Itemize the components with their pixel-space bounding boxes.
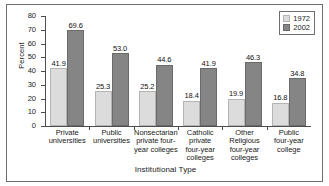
bar-value-label-2002-4: 46.3 bbox=[240, 53, 266, 62]
x-axis-category-label-2: Nonsectarianprivate four-year colleges bbox=[134, 129, 178, 154]
y-axis-tick-mark bbox=[41, 112, 45, 113]
x-axis-category-label-4: OtherReligiousfour-yearcolleges bbox=[222, 129, 266, 163]
plot-area: 0102030405060708041.969.625.353.025.244.… bbox=[45, 16, 311, 126]
y-axis-tick: 70 bbox=[41, 30, 45, 31]
legend-swatch-icon-2002 bbox=[283, 24, 290, 31]
y-axis-tick-mark bbox=[41, 71, 45, 72]
y-axis-tick-label: 70 bbox=[28, 25, 36, 34]
bar-value-label-2002-1: 53.0 bbox=[107, 44, 133, 53]
y-axis-tick: 10 bbox=[41, 112, 45, 113]
legend-item-2002: 2002 bbox=[283, 23, 310, 32]
legend-swatch-icon-1972 bbox=[283, 15, 290, 22]
bar-1972-1 bbox=[95, 91, 112, 126]
bar-1972-4 bbox=[228, 99, 245, 126]
bar-1972-3 bbox=[183, 101, 200, 126]
bar-value-label-2002-5: 34.8 bbox=[284, 69, 310, 78]
y-axis-tick: 30 bbox=[41, 85, 45, 86]
y-axis-line bbox=[45, 16, 46, 126]
y-axis-title: Percent bbox=[17, 26, 26, 86]
bar-1972-5 bbox=[272, 103, 289, 126]
y-axis-tick: 50 bbox=[41, 57, 45, 58]
bar-2002-0 bbox=[67, 30, 84, 126]
y-axis-tick-mark bbox=[41, 126, 45, 127]
bar-chart-figure: Percent Institutional Type 0102030405060… bbox=[0, 0, 329, 186]
chart-legend: 1972 2002 bbox=[279, 11, 315, 35]
figure-frame: Percent Institutional Type 0102030405060… bbox=[6, 4, 323, 182]
y-axis-tick-mark bbox=[41, 16, 45, 17]
y-axis-tick-label: 50 bbox=[28, 52, 36, 61]
y-axis-tick-mark bbox=[41, 85, 45, 86]
y-axis-tick-label: 0 bbox=[32, 121, 36, 130]
y-axis-tick-mark bbox=[41, 57, 45, 58]
bar-2002-3 bbox=[200, 68, 217, 126]
x-axis-category-label-5: Publicfour-yearcollege bbox=[267, 129, 311, 154]
legend-label-2002: 2002 bbox=[293, 23, 310, 32]
bar-value-label-2002-0: 69.6 bbox=[63, 21, 89, 30]
y-axis-tick: 20 bbox=[41, 99, 45, 100]
x-axis-category-label-3: Catholicprivatefour-yearcolleges bbox=[178, 129, 222, 163]
y-axis-tick: 40 bbox=[41, 71, 45, 72]
bar-2002-2 bbox=[156, 65, 173, 126]
bar-2002-5 bbox=[289, 78, 306, 126]
y-axis-tick: 60 bbox=[41, 44, 45, 45]
x-axis-category-label-1: Publicuniversities bbox=[89, 129, 133, 146]
bar-value-label-2002-3: 41.9 bbox=[196, 59, 222, 68]
y-axis-tick: 0 bbox=[41, 126, 45, 127]
y-axis-tick-label: 60 bbox=[28, 39, 36, 48]
y-axis-tick-mark bbox=[41, 99, 45, 100]
y-axis-tick-label: 10 bbox=[28, 107, 36, 116]
x-axis-category-label-0: Privateuniversities bbox=[45, 129, 89, 146]
bar-value-label-2002-2: 44.6 bbox=[151, 55, 177, 64]
x-axis-title: Institutional Type bbox=[7, 165, 324, 174]
bar-1972-2 bbox=[139, 91, 156, 126]
y-axis-tick-mark bbox=[41, 44, 45, 45]
legend-item-1972: 1972 bbox=[283, 14, 310, 23]
y-axis-tick-mark bbox=[41, 30, 45, 31]
y-axis-tick-label: 20 bbox=[28, 94, 36, 103]
y-axis-tick: 80 bbox=[41, 16, 45, 17]
x-axis-category-labels: PrivateuniversitiesPublicuniversitiesNon… bbox=[45, 129, 311, 165]
legend-label-1972: 1972 bbox=[293, 14, 310, 23]
y-axis-tick-label: 80 bbox=[28, 11, 36, 20]
y-axis-tick-label: 30 bbox=[28, 80, 36, 89]
y-axis-tick-label: 40 bbox=[28, 66, 36, 75]
bar-1972-0 bbox=[50, 68, 67, 126]
bar-2002-1 bbox=[112, 53, 129, 126]
bar-2002-4 bbox=[245, 62, 262, 126]
